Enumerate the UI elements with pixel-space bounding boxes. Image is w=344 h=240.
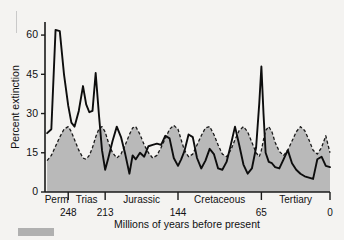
- y-tick-label-15: 15: [26, 146, 38, 158]
- boundary-age-65: 65: [256, 207, 268, 218]
- y-tick-label-60: 60: [26, 28, 38, 40]
- y-axis-title: Percent extinction: [9, 65, 21, 149]
- period-label-tertiary: Tertiary: [279, 194, 312, 205]
- boundary-age-144: 144: [170, 207, 187, 218]
- y-axis: 015304560: [26, 22, 45, 197]
- chart-svg: 015304560 PermTriasJurassicCretaceousTer…: [0, 0, 344, 240]
- y-tick-label-30: 30: [26, 107, 38, 119]
- boundary-age-213: 213: [97, 207, 114, 218]
- period-label-cretaceous: Cretaceous: [194, 194, 245, 205]
- y-tick-label-0: 0: [32, 185, 38, 197]
- x-axis: PermTriasJurassicCretaceousTertiary 2482…: [45, 192, 334, 218]
- x-axis-title: Millions of years before present: [114, 218, 260, 230]
- boundary-age-248: 248: [60, 207, 77, 218]
- boundary-age-label-group: 248213144650: [60, 207, 333, 218]
- period-label-trias: Trias: [76, 194, 98, 205]
- boundary-age-0: 0: [327, 207, 333, 218]
- period-label-perm: Perm: [45, 194, 69, 205]
- y-tick-group: 015304560: [26, 28, 45, 197]
- plot-area: [47, 30, 330, 192]
- period-label-jurassic: Jurassic: [123, 194, 160, 205]
- y-tick-label-45: 45: [26, 68, 38, 80]
- scan-artifact-bar: [18, 228, 54, 236]
- extinction-intensity-chart: 015304560 PermTriasJurassicCretaceousTer…: [0, 0, 344, 240]
- scan-artifact-line: [16, 11, 17, 33]
